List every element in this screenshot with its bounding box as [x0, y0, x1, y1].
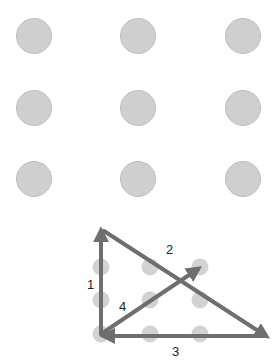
grid-dot [226, 19, 261, 54]
arrow-2 [104, 231, 266, 336]
grid-dot [17, 162, 52, 197]
arrow-label-1: 1 [87, 277, 94, 292]
arrow-4 [101, 269, 198, 334]
arrow-label-2: 2 [166, 242, 173, 257]
grid-dot [121, 19, 156, 54]
grid-dot [17, 91, 52, 126]
arrow-label-4: 4 [119, 299, 126, 314]
dot-grid [17, 19, 261, 197]
grid-dot [121, 162, 156, 197]
arrow-label-3: 3 [172, 344, 179, 359]
grid-dot [226, 162, 261, 197]
grid-dot [17, 19, 52, 54]
solution-arrows [101, 231, 266, 336]
grid-dot [121, 91, 156, 126]
grid-dot [226, 91, 261, 126]
nine-dots-puzzle: 1234 [0, 0, 274, 362]
